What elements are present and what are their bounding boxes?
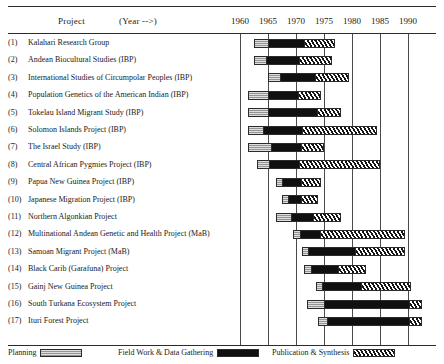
gantt-segment-publication [338, 266, 365, 273]
gantt-row[interactable]: (7)The Israel Study (IBP) [0, 139, 444, 156]
gantt-bar[interactable] [248, 126, 377, 135]
gantt-segment-publication [299, 57, 332, 64]
gantt-row[interactable]: (16)South Turkana Ecosystem Project [0, 296, 444, 313]
gantt-segment-field [268, 40, 304, 47]
gantt-segment-field [280, 74, 316, 81]
column-header-year: (Year -->) [119, 16, 157, 26]
gantt-segment-field [271, 144, 301, 151]
gantt-segment-publication [317, 109, 339, 116]
year-tick-label-1990: 1990 [399, 16, 417, 26]
gantt-bar[interactable] [307, 300, 422, 309]
gantt-segment-field [282, 179, 301, 186]
gantt-row[interactable]: (3)International Studies of Circumpolar … [0, 70, 444, 87]
project-label: Multinational Andean Genetic and Health … [28, 229, 210, 238]
gantt-row[interactable]: (1)Kalahari Research Group [0, 35, 444, 52]
row-number: (6) [8, 125, 17, 134]
legend-swatch-publication [353, 349, 395, 357]
gantt-bar[interactable] [248, 143, 324, 152]
gantt-segment-field [300, 231, 320, 238]
column-header-project: Project [58, 16, 85, 26]
gantt-segment-planning [258, 161, 269, 168]
project-label: Kalahari Research Group [28, 38, 109, 47]
legend-label-publication: Publication & Synthesis [272, 348, 349, 357]
gantt-segment-planning [255, 57, 266, 64]
row-number: (2) [8, 55, 17, 64]
gantt-segment-publication [320, 231, 405, 238]
gantt-bar[interactable] [276, 178, 321, 187]
gantt-bar[interactable] [293, 230, 405, 239]
gantt-segment-publication [299, 161, 379, 168]
gantt-bar[interactable] [254, 39, 335, 48]
gantt-segment-field [288, 196, 301, 203]
row-number: (8) [8, 160, 17, 169]
gantt-segment-field [322, 283, 361, 290]
gantt-chart: Project (Year -->) 196019651970197519801… [0, 0, 444, 364]
row-number: (1) [8, 38, 17, 47]
gantt-bar[interactable] [248, 91, 321, 100]
row-number: (5) [8, 108, 17, 117]
gantt-row[interactable]: (11)Northern Algonkian Project [0, 209, 444, 226]
project-label: Central African Pygmies Project (IBP) [28, 160, 152, 169]
top-rule [8, 6, 436, 7]
gantt-bar[interactable] [318, 317, 422, 326]
gantt-segment-planning [249, 92, 268, 99]
gantt-bar[interactable] [302, 247, 406, 256]
gantt-segment-planning [269, 74, 280, 81]
gantt-segment-field [311, 266, 338, 273]
year-tick-label-1965: 1965 [259, 16, 277, 26]
gantt-segment-planning [249, 109, 268, 116]
gantt-bar[interactable] [268, 73, 349, 82]
gantt-segment-field [308, 248, 355, 255]
gantt-segment-planning [319, 318, 327, 325]
gantt-row[interactable]: (5)Tokelau Island Migrant Study (IBP) [0, 105, 444, 122]
gantt-segment-field [291, 214, 313, 221]
gantt-bar[interactable] [316, 282, 411, 291]
gantt-row[interactable]: (15)Gainj New Guinea Project [0, 279, 444, 296]
row-number: (4) [8, 90, 17, 99]
project-label: Population Genetics of the American Indi… [28, 90, 188, 99]
gantt-row[interactable]: (12)Multinational Andean Genetic and Hea… [0, 226, 444, 243]
gantt-segment-field [266, 57, 299, 64]
row-number: (15) [8, 282, 21, 291]
project-label: Andean Biocultural Studies (IBP) [28, 55, 136, 64]
legend-rule [8, 345, 436, 346]
legend-entry-field: Field Work & Data Gathering [118, 348, 259, 357]
gantt-bar[interactable] [276, 213, 340, 222]
gantt-row[interactable]: (13)Samoan Migrant Project (MaB) [0, 244, 444, 261]
project-label: Japanese Migration Project (IBP) [28, 195, 135, 204]
gantt-row[interactable]: (6)Solomon Islands Project (IBP) [0, 122, 444, 139]
gantt-bar[interactable] [248, 108, 340, 117]
gantt-segment-publication [313, 214, 340, 221]
gantt-row[interactable]: (10)Japanese Migration Project (IBP) [0, 192, 444, 209]
gantt-segment-publication [361, 283, 410, 290]
gantt-row[interactable]: (17)Ituri Forest Project [0, 313, 444, 330]
gantt-bar[interactable] [304, 265, 366, 274]
gantt-segment-planning [255, 40, 268, 47]
year-tick-label-1980: 1980 [343, 16, 361, 26]
gantt-bar[interactable] [254, 56, 332, 65]
row-number: (10) [8, 195, 21, 204]
gantt-segment-publication [301, 179, 320, 186]
gantt-row[interactable]: (8)Central African Pygmies Project (IBP) [0, 157, 444, 174]
row-number: (11) [8, 212, 21, 221]
gantt-segment-planning [277, 214, 290, 221]
gantt-row[interactable]: (9)Papua New Guinea Project (IBP) [0, 174, 444, 191]
gantt-segment-field [327, 318, 409, 325]
gantt-bar[interactable] [282, 195, 318, 204]
project-label: Gainj New Guinea Project [28, 282, 113, 291]
gantt-segment-field [324, 301, 409, 308]
gantt-row[interactable]: (4)Population Genetics of the American I… [0, 87, 444, 104]
gantt-segment-publication [298, 92, 320, 99]
row-number: (7) [8, 142, 17, 151]
project-label: Papua New Guinea Project (IBP) [28, 177, 134, 186]
row-number: (13) [8, 247, 21, 256]
row-number: (14) [8, 264, 21, 273]
gantt-segment-publication [409, 318, 421, 325]
year-tick-label-1970: 1970 [287, 16, 305, 26]
gantt-row[interactable]: (2)Andean Biocultural Studies (IBP) [0, 52, 444, 69]
gantt-row[interactable]: (14)Black Carib (Garafuna) Project [0, 261, 444, 278]
project-label: Tokelau Island Migrant Study (IBP) [28, 108, 143, 117]
gantt-segment-planning [249, 144, 270, 151]
year-tick-label-1985: 1985 [371, 16, 389, 26]
gantt-bar[interactable] [257, 160, 380, 169]
